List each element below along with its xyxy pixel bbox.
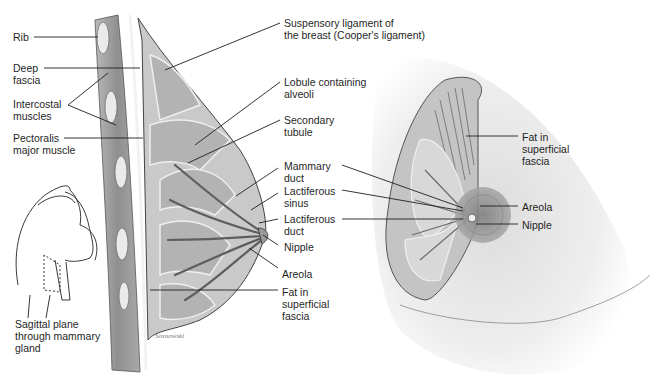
label-deep-fascia: Deep fascia bbox=[13, 62, 40, 86]
label-suspensory-ligament: Suspensory ligament of the breast (Coope… bbox=[284, 17, 425, 41]
label-areola: Areola bbox=[282, 268, 312, 280]
label-nipple-right: Nipple bbox=[522, 219, 552, 231]
sagittal-section: Sosnowski bbox=[95, 15, 268, 372]
label-fat-in-superficial-fascia: Fat in superficial fascia bbox=[282, 286, 329, 322]
label-intercostal-muscles: Intercostal muscles bbox=[13, 98, 61, 122]
label-lactiferous-duct: Lactiferous duct bbox=[284, 213, 335, 237]
label-nipple: Nipple bbox=[284, 241, 314, 253]
label-mammary-duct: Mammary duct bbox=[284, 160, 331, 184]
label-pectoralis-major-muscle: Pectoralis major muscle bbox=[13, 132, 75, 156]
inset-figure bbox=[16, 186, 97, 318]
label-lobule-containing-alveoli: Lobule containing alveoli bbox=[284, 76, 366, 100]
anterior-view bbox=[372, 57, 650, 375]
inset-caption: Sagittal plane through mammary gland bbox=[15, 318, 100, 354]
artist-signature: Sosnowski bbox=[155, 332, 184, 340]
label-fat-in-superficial-fascia-right: Fat in superficial fascia bbox=[522, 131, 569, 167]
label-areola-right: Areola bbox=[522, 201, 552, 213]
label-secondary-tubule: Secondary tubule bbox=[284, 114, 334, 138]
label-rib: Rib bbox=[13, 31, 29, 43]
nipple-shape bbox=[468, 214, 476, 222]
label-lactiferous-sinus: Lactiferous sinus bbox=[284, 185, 335, 209]
